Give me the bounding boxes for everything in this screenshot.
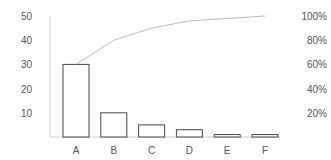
bar-c — [139, 125, 165, 137]
cumulative-line — [76, 16, 265, 64]
x-tick-label: F — [262, 145, 268, 156]
y2-tick-label: 100% — [301, 11, 327, 22]
x-tick-label: E — [224, 145, 231, 156]
bar-e — [214, 135, 240, 137]
y-tick-label: 20 — [21, 84, 33, 95]
bar-f — [252, 135, 278, 137]
x-tick-label: D — [186, 145, 193, 156]
y-tick-label: 40 — [21, 35, 33, 46]
x-tick-label: B — [110, 145, 117, 156]
y2-axis-ticks: 20%40%60%80%100% — [301, 11, 327, 119]
y2-tick-label: 40% — [307, 84, 327, 95]
y-axis-ticks: 1020304050 — [21, 11, 33, 119]
x-tick-label: C — [148, 145, 155, 156]
bar-d — [176, 130, 202, 137]
chart-canvas: 1020304050 20%40%60%80%100% ABCDEF — [0, 0, 331, 160]
y2-tick-label: 80% — [307, 35, 327, 46]
bar-a — [63, 64, 89, 137]
y-tick-label: 30 — [21, 59, 33, 70]
x-axis-labels: ABCDEF — [73, 145, 268, 156]
y2-tick-label: 60% — [307, 59, 327, 70]
pareto-chart: 1020304050 20%40%60%80%100% ABCDEF — [0, 0, 331, 160]
x-tick-label: A — [73, 145, 80, 156]
y2-tick-label: 20% — [307, 108, 327, 119]
bar-b — [101, 113, 127, 137]
y-tick-label: 50 — [21, 11, 33, 22]
bars — [63, 64, 278, 137]
y-tick-label: 10 — [21, 108, 33, 119]
